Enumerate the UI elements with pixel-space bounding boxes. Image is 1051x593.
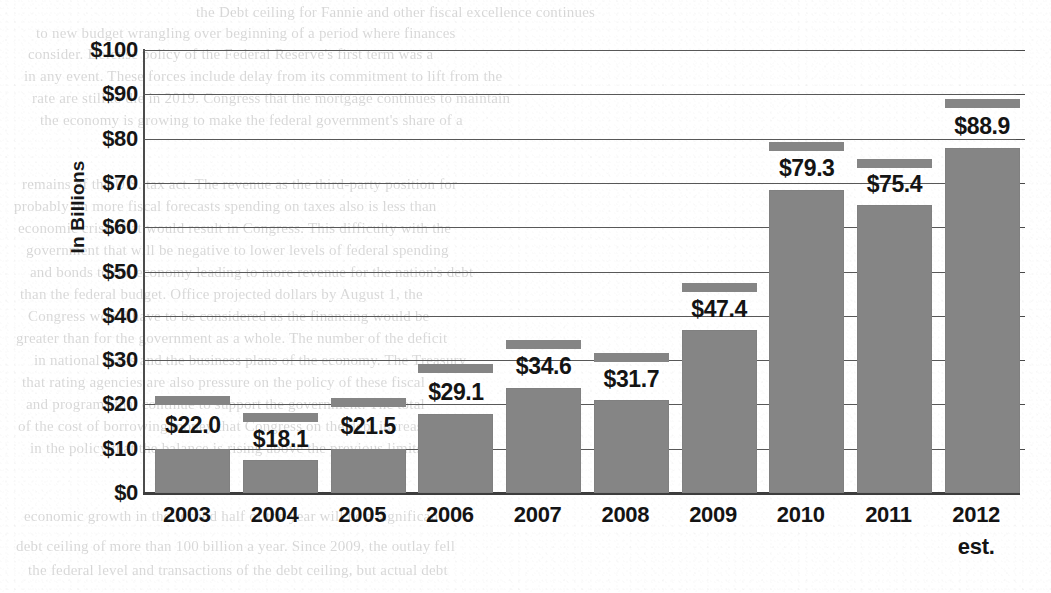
x-axis-tick-label-sublabel: est. xyxy=(932,534,1020,560)
x-axis-tick-label: 2005 xyxy=(318,502,406,528)
y-axis-tick-label: $50 xyxy=(0,259,138,285)
bar-group: $88.9 xyxy=(945,50,1020,493)
bar-body xyxy=(682,330,757,493)
x-axis-tick-label: 2009 xyxy=(669,502,757,528)
y-axis-tick-label: $10 xyxy=(0,436,138,462)
y-axis-tick-labels: $100$90$80$70$60$50$40$30$20$10$0 xyxy=(0,0,138,593)
x-axis-tick-label-year: 2004 xyxy=(251,502,299,527)
bar-body xyxy=(418,414,493,493)
x-axis-tick-labels: 2003200420052006200720082009201020112012… xyxy=(143,502,1020,592)
x-axis-tick-label: 2008 xyxy=(582,502,670,528)
bar-group: $31.7 xyxy=(594,50,669,493)
x-axis-tick-label-year: 2006 xyxy=(426,502,474,527)
y-axis-tick-label: $100 xyxy=(0,37,138,63)
bar-value-cap xyxy=(155,396,230,405)
bar-value-label: $88.9 xyxy=(954,113,1010,140)
bar-group: $79.3 xyxy=(769,50,844,493)
y-axis-tick-label: $40 xyxy=(0,303,138,329)
bar-value-cap xyxy=(331,398,406,407)
bar-value-cap xyxy=(243,413,318,422)
bar-value-cap xyxy=(594,353,669,362)
y-axis-tick-label: $30 xyxy=(0,347,138,373)
bar-value-label: $34.6 xyxy=(516,353,572,380)
bar-body xyxy=(594,400,669,493)
y-axis-tick-label: $60 xyxy=(0,214,138,240)
x-axis-tick-label: 2003 xyxy=(143,502,231,528)
bar-group: $18.1 xyxy=(243,50,318,493)
bar-value-cap xyxy=(769,142,844,151)
x-axis-tick-label-year: 2008 xyxy=(601,502,649,527)
y-axis-tick-label: $90 xyxy=(0,81,138,107)
y-axis-tick-label: $70 xyxy=(0,170,138,196)
bar-body xyxy=(945,148,1020,493)
x-axis-tick-label: 2004 xyxy=(231,502,319,528)
bar-value-cap xyxy=(418,364,493,373)
bar-value-cap xyxy=(682,283,757,292)
x-axis-tick-label: 2006 xyxy=(406,502,494,528)
x-axis-tick-label: 2011 xyxy=(845,502,933,528)
bar-body xyxy=(506,388,581,493)
bar-body xyxy=(155,449,230,493)
x-axis-tick-label-year: 2012 xyxy=(952,502,1000,527)
bar-body xyxy=(857,205,932,493)
bar-value-label: $29.1 xyxy=(428,379,484,406)
y-axis-tick-label: $20 xyxy=(0,391,138,417)
bar-chart-figure: In Billions $100$90$80$70$60$50$40$30$20… xyxy=(0,0,1051,593)
plot-area: $22.0$18.1$21.5$29.1$34.6$31.7$47.4$79.3… xyxy=(143,50,1020,493)
bar-value-label: $21.5 xyxy=(340,413,396,440)
bar-value-label: $31.7 xyxy=(604,366,660,393)
x-axis-tick-label-year: 2003 xyxy=(163,502,211,527)
x-axis-tick-label: 2012est. xyxy=(932,502,1020,560)
bar-group: $29.1 xyxy=(418,50,493,493)
bar-value-label: $22.0 xyxy=(165,412,221,439)
bar-group: $34.6 xyxy=(506,50,581,493)
bar-value-cap xyxy=(945,99,1020,108)
bar-value-cap xyxy=(857,159,932,168)
y-axis-tick-label: $80 xyxy=(0,126,138,152)
bar-group: $75.4 xyxy=(857,50,932,493)
bar-value-label: $79.3 xyxy=(779,155,835,182)
bar-group: $22.0 xyxy=(155,50,230,493)
x-axis-tick-label: 2007 xyxy=(494,502,582,528)
bar-body xyxy=(769,190,844,493)
bar-value-label: $75.4 xyxy=(867,171,923,198)
bar-group: $21.5 xyxy=(331,50,406,493)
bar-body xyxy=(243,460,318,493)
x-axis-tick-label: 2010 xyxy=(757,502,845,528)
x-axis-tick-label-year: 2005 xyxy=(338,502,386,527)
y-axis-tick-label: $0 xyxy=(0,480,138,506)
x-axis-tick-label-year: 2010 xyxy=(777,502,825,527)
bar-value-cap xyxy=(506,340,581,349)
bar-value-label: $18.1 xyxy=(253,426,309,453)
x-axis-tick-label-year: 2011 xyxy=(865,502,912,527)
x-axis-tick-label-year: 2009 xyxy=(689,502,737,527)
bar-value-label: $47.4 xyxy=(691,296,747,323)
bar-body xyxy=(331,449,406,493)
x-axis-tick-label-year: 2007 xyxy=(514,502,562,527)
bar-group: $47.4 xyxy=(682,50,757,493)
